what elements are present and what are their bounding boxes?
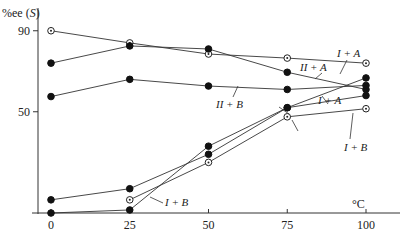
x-tick-label: 25 — [124, 218, 136, 232]
data-point-open-center — [129, 199, 131, 201]
y-axis-label: %ee (S) — [2, 6, 40, 20]
series-annotation: II + A — [299, 61, 327, 73]
x-tick-label: 0 — [48, 218, 54, 232]
data-point-filled — [126, 43, 133, 50]
y-axis-title: %ee (S) — [2, 6, 40, 20]
series-annotation: I + B — [164, 196, 189, 208]
data-point-open-center — [286, 116, 288, 118]
y-tick-label: 50 — [18, 105, 30, 119]
data-point-open-center — [286, 57, 288, 59]
y-tick-label: 90 — [18, 24, 30, 38]
data-point-open-center — [365, 62, 367, 64]
annotations: I + AII + AII + BI + AI + BI + B — [150, 47, 368, 208]
data-point-filled — [363, 92, 370, 99]
data-point-filled — [284, 86, 291, 93]
data-point-filled — [205, 143, 212, 150]
series-annotation: II + B — [215, 98, 243, 110]
data-point-open-center — [208, 53, 210, 55]
data-point-filled — [205, 151, 212, 158]
data-point-filled — [48, 60, 55, 67]
series-line — [130, 109, 366, 200]
data-point-filled — [126, 76, 133, 83]
x-tick-label: 50 — [203, 218, 215, 232]
data-point-open-center — [208, 161, 210, 163]
data-point-open-center — [365, 108, 367, 110]
data-point-filled — [126, 207, 133, 214]
y-ticks: 5090 — [18, 24, 38, 119]
data-point-filled — [48, 93, 55, 100]
data-point-filled — [205, 46, 212, 53]
leader-line — [315, 73, 322, 79]
leader-line — [150, 197, 163, 203]
data-point-filled — [284, 104, 291, 111]
series-annotation: I + A — [336, 47, 360, 59]
data-point-filled — [363, 82, 370, 89]
x-tick-label: 75 — [281, 218, 293, 232]
data-point-filled — [48, 197, 55, 204]
data-point-filled — [126, 185, 133, 192]
leader-line — [350, 113, 353, 139]
chart: %ee (S) 0255075100 5090 °C I + AII + AII… — [0, 0, 409, 241]
series-lines — [51, 31, 366, 213]
x-tick-label: 100 — [357, 218, 375, 232]
x-ticks: 0255075100 — [48, 209, 375, 232]
data-point-open-center — [50, 30, 52, 32]
data-point-filled — [48, 210, 55, 217]
data-point-filled — [284, 69, 291, 76]
data-point-filled — [205, 83, 212, 90]
series-points — [48, 27, 370, 216]
x-axis-label: °C — [352, 197, 365, 211]
leader-line — [292, 120, 298, 131]
series-annotation: I + A — [317, 94, 341, 106]
series-annotation: I + B — [343, 141, 368, 153]
data-point-filled — [363, 75, 370, 82]
